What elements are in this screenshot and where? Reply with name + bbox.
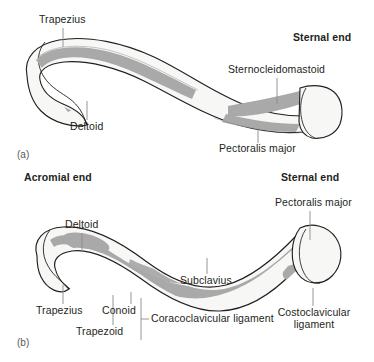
label-conoid: Conoid bbox=[102, 305, 136, 317]
label-trapezius-a: Trapezius bbox=[39, 14, 86, 26]
label-sternal-end-a: Sternal end bbox=[293, 32, 351, 44]
label-subclavius: Subclavius bbox=[180, 275, 232, 287]
label-sternocleidomastoid: Sternocleidomastoid bbox=[228, 64, 325, 76]
label-coracoclavicular-ligament: Coracoclavicular ligament bbox=[151, 313, 274, 325]
label-deltoid-a: Deltoid bbox=[70, 121, 103, 133]
label-deltoid-b: Deltoid bbox=[65, 219, 98, 231]
label-sternal-end-b: Sternal end bbox=[281, 172, 339, 184]
panel-tag-b: (b) bbox=[17, 337, 29, 348]
coracoclavicular-bracket bbox=[141, 298, 149, 340]
label-acromial-end-b: Acromial end bbox=[24, 172, 92, 184]
figure-canvas: Trapezius Sternal end Sternocleidomastoi… bbox=[0, 0, 374, 362]
label-pectoralis-major-a: Pectoralis major bbox=[219, 143, 296, 155]
label-trapezoid: Trapezoid bbox=[76, 326, 123, 338]
label-trapezius-b: Trapezius bbox=[36, 305, 83, 317]
label-pectoralis-major-b: Pectoralis major bbox=[275, 197, 352, 209]
label-costoclavicular-ligament: Costoclavicular ligament bbox=[277, 307, 351, 330]
costoclavicular-line-2: ligament bbox=[294, 318, 335, 330]
panel-tag-a: (a) bbox=[17, 149, 29, 160]
costoclavicular-line-1: Costoclavicular bbox=[278, 306, 351, 318]
